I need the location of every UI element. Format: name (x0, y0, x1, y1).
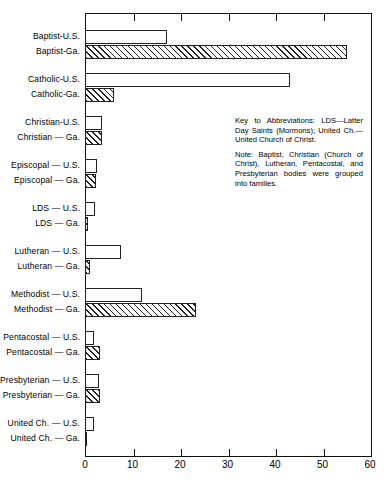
y-label-lds-ga: LDS — Ga. (0, 219, 80, 228)
x-tick-label-60: 60 (364, 459, 375, 471)
bar-united-ch-u-s (85, 417, 94, 431)
x-tick-label-40: 40 (269, 459, 280, 471)
x-tick-label-30: 30 (222, 459, 233, 471)
bar-baptist-u-s (85, 30, 167, 44)
y-label-baptist-u-s: Baptist-U.S. (0, 32, 80, 41)
bars-layer (85, 13, 370, 455)
bar-catholic-u-s (85, 73, 290, 87)
bar-catholic-ga (85, 88, 114, 102)
y-label-christian-u-s: Christian-U.S. (0, 118, 80, 127)
y-label-united-ch-u-s: United Ch. — U.S. (0, 419, 80, 428)
bar-pentacostal-u-s (85, 331, 94, 345)
y-label-lds-u-s: LDS — U.S. (0, 204, 80, 213)
bar-baptist-ga (85, 45, 347, 59)
bar-methodist-u-s (85, 288, 142, 302)
bar-episcopal-u-s (85, 159, 97, 173)
y-label-presbyterian-ga: Presbyterian — Ga. (0, 391, 80, 400)
y-label-catholic-u-s: Catholic-U.S. (0, 75, 80, 84)
key-note-text: Note: Baptist, Christian (Church of Chri… (235, 150, 363, 188)
x-tick-label-20: 20 (174, 459, 185, 471)
y-label-methodist-ga: Methodist — Ga. (0, 305, 80, 314)
bar-pentacostal-ga (85, 346, 100, 360)
y-label-pentacostal-u-s: Pentacostal — U.S. (0, 333, 80, 342)
bar-presbyterian-ga (85, 389, 100, 403)
y-label-episcopal-u-s: Episcopal — U.S. (0, 161, 80, 170)
y-label-methodist-u-s: Methodist — U.S. (0, 290, 80, 299)
x-tick-label-50: 50 (317, 459, 328, 471)
bar-christian-ga (85, 131, 102, 145)
y-label-baptist-ga: Baptist-Ga. (0, 47, 80, 56)
bar-united-ch-ga (85, 432, 87, 446)
bar-presbyterian-u-s (85, 374, 99, 388)
y-label-pentacostal-ga: Pentacostal — Ga. (0, 348, 80, 357)
bar-methodist-ga (85, 303, 196, 317)
bar-lds-ga (85, 217, 88, 231)
y-label-presbyterian-u-s: Presbyterian — U.S. (0, 376, 80, 385)
key-and-note-block: Key to Abbreviations: LDS—Latter Day Sai… (235, 116, 363, 188)
y-label-lutheran-ga: Lutheran — Ga. (0, 262, 80, 271)
bar-episcopal-ga (85, 174, 96, 188)
x-axis-labels: 0102030405060 (85, 459, 370, 479)
x-tick-label-10: 10 (127, 459, 138, 471)
y-label-catholic-ga: Catholic-Ga. (0, 90, 80, 99)
chart-figure: Baptist-U.S.Baptist-Ga.Catholic-U.S.Cath… (0, 0, 386, 484)
bar-lutheran-u-s (85, 245, 121, 259)
y-label-lutheran-u-s: Lutheran — U.S. (0, 247, 80, 256)
y-axis-labels: Baptist-U.S.Baptist-Ga.Catholic-U.S.Cath… (0, 13, 80, 455)
bar-christian-u-s (85, 116, 102, 130)
y-label-united-ch-ga: United Ch. — Ga. (0, 434, 80, 443)
bar-lutheran-ga (85, 260, 90, 274)
key-abbreviations-text: Key to Abbreviations: LDS—Latter Day Sai… (235, 116, 363, 145)
y-label-christian-ga: Christian — Ga. (0, 133, 80, 142)
x-tick-label-0: 0 (82, 459, 88, 471)
y-label-episcopal-ga: Episcopal — Ga. (0, 176, 80, 185)
bar-lds-u-s (85, 202, 95, 216)
